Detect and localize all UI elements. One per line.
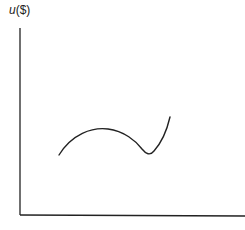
utility-curve <box>59 117 170 155</box>
utility-diagram <box>0 0 245 230</box>
x-axis <box>20 215 245 216</box>
